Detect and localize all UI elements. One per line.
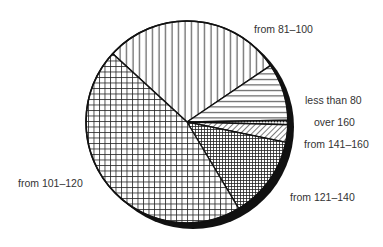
label-from-121-140: from 121–140 [290, 191, 355, 203]
label-less-than-80: less than 80 [305, 94, 362, 106]
label-over-160: over 160 [314, 116, 355, 128]
label-from-81-100: from 81–100 [254, 23, 313, 35]
label-from-101-120: from 101–120 [18, 177, 83, 189]
label-from-141-160: from 141–160 [304, 138, 369, 150]
pie-slices [86, 21, 288, 223]
